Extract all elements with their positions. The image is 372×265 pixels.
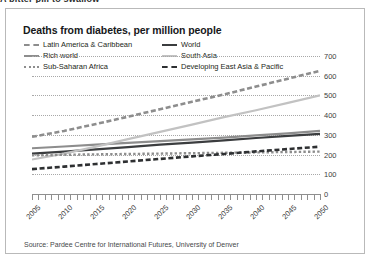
- x-axis-tick: [237, 194, 238, 200]
- x-axis-tick-label: 2010: [56, 203, 74, 221]
- x-axis-tick: [90, 194, 91, 200]
- x-axis-tick: [77, 194, 78, 200]
- x-axis-tick: [269, 194, 270, 200]
- x-axis-tick: [122, 194, 123, 200]
- legend-label: Latin America & Caribbean: [43, 40, 132, 49]
- x-axis-tick: [320, 194, 321, 200]
- x-axis-tick-label: 2050: [312, 203, 330, 221]
- y-axis-tick-label: 600: [324, 71, 337, 80]
- x-axis-tick-label: 2045: [280, 203, 298, 221]
- x-axis-tick: [102, 194, 103, 200]
- legend-label: World: [181, 40, 200, 49]
- x-axis-tick: [128, 194, 129, 200]
- x-axis-tick: [64, 194, 65, 200]
- y-axis-tick-label: 400: [324, 111, 337, 120]
- x-axis-tick: [294, 194, 295, 200]
- x-axis-line: [32, 194, 320, 195]
- x-axis-tick-label: 2020: [120, 203, 138, 221]
- x-axis-tick-label: 2025: [152, 203, 170, 221]
- legend-swatch-dashed-icon: [24, 40, 39, 49]
- x-axis-tick: [205, 194, 206, 200]
- x-axis-tick: [115, 194, 116, 200]
- x-axis-tick: [275, 194, 276, 200]
- x-axis-tick: [51, 194, 52, 200]
- y-axis-tick-label: 300: [324, 130, 337, 139]
- legend-swatch-solid-icon: [162, 40, 177, 49]
- source-note: Source: Pardee Centre for International …: [24, 241, 239, 248]
- x-axis-tick: [218, 194, 219, 200]
- x-axis-tick: [166, 194, 167, 200]
- x-axis-tick: [198, 194, 199, 200]
- x-axis-tick-label: 2005: [24, 203, 42, 221]
- series-line: [32, 131, 320, 148]
- x-axis-tick-label: 2015: [88, 203, 106, 221]
- x-axis-tick-label: 2035: [216, 203, 234, 221]
- series-line: [32, 71, 320, 137]
- x-axis-tick: [256, 194, 257, 200]
- x-axis-tick: [83, 194, 84, 200]
- clipped-article-heading: A bitter pill to swallow: [0, 0, 372, 3]
- y-axis-tick-label: 200: [324, 150, 337, 159]
- x-axis-tick: [96, 194, 97, 200]
- x-axis-tick: [160, 194, 161, 200]
- chart-card: Deaths from diabetes, per million people…: [5, 8, 365, 254]
- x-axis-tick: [134, 194, 135, 200]
- plot-area: [32, 56, 320, 194]
- x-axis-tick: [314, 194, 315, 200]
- x-axis-tick-label: 2030: [184, 203, 202, 221]
- y-axis-tick-label: 700: [324, 52, 337, 61]
- x-axis-tick: [250, 194, 251, 200]
- x-axis-tick: [32, 194, 33, 200]
- x-axis-tick: [141, 194, 142, 200]
- y-axis-tick-label: 500: [324, 91, 337, 100]
- x-axis-tick: [262, 194, 263, 200]
- chart-page: A bitter pill to swallow Deaths from dia…: [0, 0, 372, 265]
- x-axis-tick: [186, 194, 187, 200]
- x-axis-tick: [301, 194, 302, 200]
- x-axis-tick: [192, 194, 193, 200]
- x-axis-tick: [58, 194, 59, 200]
- x-axis-tick: [147, 194, 148, 200]
- x-axis-tick: [243, 194, 244, 200]
- x-axis-tick: [45, 194, 46, 200]
- x-axis-tick: [230, 194, 231, 200]
- x-axis-tick: [179, 194, 180, 200]
- chart-title: Deaths from diabetes, per million people: [23, 24, 221, 36]
- legend-item[interactable]: World: [162, 40, 200, 49]
- legend-item[interactable]: Latin America & Caribbean: [24, 40, 132, 49]
- x-axis-tick: [224, 194, 225, 200]
- x-axis-tick: [154, 194, 155, 200]
- x-axis-tick: [173, 194, 174, 200]
- legend-row: Latin America & CaribbeanWorld: [24, 40, 354, 51]
- x-axis-tick: [307, 194, 308, 200]
- x-axis-tick: [211, 194, 212, 200]
- x-axis-tick-label: 2040: [248, 203, 266, 221]
- x-axis-tick: [282, 194, 283, 200]
- x-axis-tick: [70, 194, 71, 200]
- y-axis-tick-label: 0: [324, 190, 328, 199]
- series-lines: [32, 56, 320, 194]
- x-axis-tick: [288, 194, 289, 200]
- y-axis-tick-label: 100: [324, 170, 337, 179]
- x-axis-tick: [38, 194, 39, 200]
- x-axis-tick: [109, 194, 110, 200]
